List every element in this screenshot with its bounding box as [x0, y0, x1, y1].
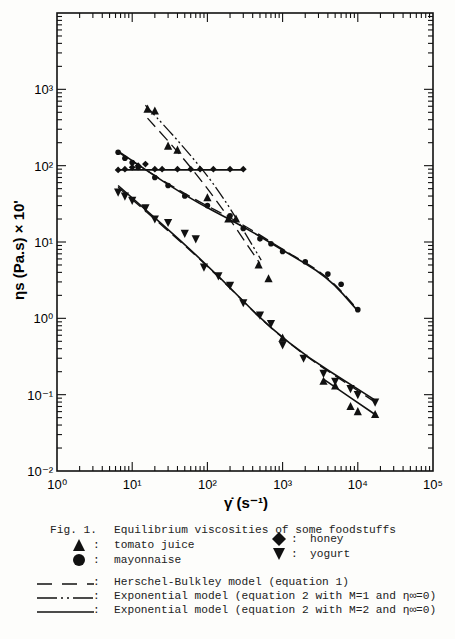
- triangle-down-marker: [181, 230, 189, 238]
- diamond-marker: [115, 167, 122, 174]
- diamond-marker: [159, 166, 166, 173]
- x-tick-label: 10¹: [123, 477, 142, 492]
- x-tick-label: 10⁴: [348, 477, 368, 492]
- legend-colon: :: [93, 603, 100, 617]
- diamond-marker: [142, 161, 149, 168]
- legend-colon: :: [291, 532, 298, 546]
- triangle-down-marker: [319, 370, 327, 378]
- circle-marker: [280, 249, 286, 255]
- triangle-down-marker: [121, 192, 129, 200]
- legend-label-exponential-m2: Exponential model (equation 2 with M=2 a…: [114, 603, 436, 617]
- diamond-marker: [187, 166, 194, 173]
- triangle-down-marker: [192, 235, 200, 243]
- legend-colon: :: [93, 538, 100, 552]
- legend-label-mayonnaise: mayonnaise: [114, 553, 181, 567]
- x-axis-label: γ̇ (s⁻¹): [224, 494, 268, 511]
- circle-marker: [325, 271, 331, 277]
- triangle-down-marker: [279, 341, 287, 349]
- triangle-down-marker: [371, 398, 379, 406]
- dashed-line-icon: [36, 576, 96, 590]
- triangle-up-marker: [255, 260, 263, 268]
- triangle-up-icon: [72, 538, 86, 552]
- caption-figure-label: Fig. 1.: [50, 523, 97, 537]
- diamond-marker: [227, 166, 234, 173]
- triangle-down-marker: [346, 385, 354, 393]
- y-tick-label: 10⁻¹: [27, 388, 53, 403]
- circle-marker: [240, 226, 246, 232]
- triangle-up-marker: [203, 193, 211, 201]
- y-axis-label: ηs (Pa.s) × 10': [10, 200, 27, 300]
- diamond-marker: [174, 166, 181, 173]
- circle-marker: [205, 203, 211, 209]
- triangle-up-marker: [143, 105, 151, 113]
- circle-icon: [72, 553, 86, 567]
- x-tick-label: 10⁵: [423, 477, 443, 492]
- legend-colon: :: [93, 575, 100, 589]
- triangle-up-marker: [346, 402, 354, 410]
- solid-line-icon: [36, 604, 96, 618]
- circle-marker: [152, 175, 158, 181]
- diamond-marker: [151, 166, 158, 173]
- legend-label-exponential-m1: Exponential model (equation 2 with M=1 a…: [114, 589, 436, 603]
- triangle-down-icon: [272, 547, 286, 561]
- model-curve-dashed: [148, 118, 261, 264]
- legend-colon: :: [291, 547, 298, 561]
- legend-colon: :: [93, 553, 100, 567]
- triangle-up-marker: [371, 410, 379, 418]
- circle-marker: [182, 193, 188, 199]
- diamond-marker: [122, 166, 129, 173]
- circle-marker: [338, 281, 344, 287]
- viscosity-chart: 10⁰10¹10²10³10⁴10⁵10⁻²10⁻¹10⁰10¹10²10³ γ…: [0, 0, 455, 520]
- legend-label-tomato-juice: tomato juice: [114, 538, 195, 552]
- legend-colon: :: [93, 589, 100, 603]
- circle-marker: [227, 213, 233, 219]
- legend-label-yogurt: yogurt: [310, 547, 350, 561]
- triangle-up-marker: [151, 106, 159, 114]
- circle-marker: [257, 236, 263, 242]
- diamond-icon: [272, 532, 286, 546]
- circle-marker: [268, 241, 274, 247]
- triangle-up-marker: [164, 142, 172, 150]
- triangle-up-marker: [173, 145, 181, 153]
- legend-label-honey: honey: [310, 532, 344, 546]
- model-curve-dash-dot: [145, 105, 261, 260]
- diamond-marker: [210, 166, 217, 173]
- circle-marker: [115, 149, 121, 155]
- caption-title: Equilibrium viscosities of some foodstuf…: [114, 523, 396, 537]
- diamond-marker: [240, 166, 247, 173]
- circle-marker: [302, 259, 308, 265]
- circle-marker: [165, 183, 171, 189]
- x-tick-label: 10³: [273, 477, 292, 492]
- y-tick-label: 10¹: [34, 235, 53, 250]
- dash-dot-line-icon: [36, 590, 96, 604]
- x-tick-label: 10²: [198, 477, 217, 492]
- triangle-down-marker: [200, 263, 208, 271]
- triangle-up-marker: [264, 274, 272, 282]
- triangle-down-marker: [354, 391, 362, 399]
- diamond-marker: [197, 166, 204, 173]
- y-tick-label: 10²: [34, 159, 53, 174]
- x-tick-label: 10⁰: [47, 477, 66, 492]
- data-points: [114, 105, 379, 419]
- triangle-down-marker: [164, 219, 172, 227]
- circle-marker: [122, 155, 128, 161]
- triangle-up-marker: [232, 214, 240, 222]
- y-tick-label: 10⁻²: [27, 464, 53, 479]
- legend-label-herschel-bulkley: Herschel-Bulkley model (equation 1): [114, 575, 349, 589]
- y-tick-label: 10⁰: [34, 311, 53, 326]
- triangle-up-marker: [354, 407, 362, 415]
- circle-marker: [355, 307, 361, 313]
- axis-tick-labels: 10⁰10¹10²10³10⁴10⁵10⁻²10⁻¹10⁰10¹10²10³: [27, 82, 443, 492]
- triangle-down-marker: [299, 355, 307, 363]
- y-tick-label: 10³: [34, 82, 53, 97]
- model-curves: [118, 105, 375, 414]
